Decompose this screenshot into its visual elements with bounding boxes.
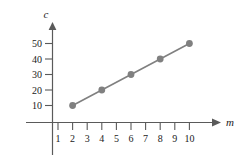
x-axis [26,119,221,127]
x-tick-label: 6 [129,133,134,144]
x-tick-label: 3 [85,133,90,144]
data-point-marker [157,56,164,63]
x-axis-arrow-icon [212,119,221,127]
data-point-marker [186,40,193,47]
x-tick-label: 9 [172,133,177,144]
x-axis-tick-labels: 1 2 3 4 5 6 7 8 9 10 [56,133,195,144]
x-tick-label: 2 [70,133,75,144]
x-tick-label: 7 [143,133,148,144]
y-tick-label: 30 [32,69,42,80]
y-tick-label: 10 [32,100,42,111]
y-axis-arrow-icon [49,22,57,30]
data-point-marker [69,102,76,109]
data-point-markers [69,40,193,109]
y-tick-label: 40 [32,54,42,65]
x-tick-label: 8 [158,133,163,144]
y-tick-label: 20 [32,85,42,96]
chart-canvas: 50 40 30 20 10 1 2 3 4 5 6 7 8 9 10 [0,0,248,164]
x-tick-label: 4 [99,133,104,144]
y-axis-label: c [44,8,49,20]
data-point-marker [98,87,105,94]
y-axis-ticks [45,44,53,106]
x-axis-ticks [58,122,189,130]
data-point-marker [128,71,135,78]
x-tick-label: 5 [114,133,119,144]
x-tick-label: 10 [184,133,194,144]
y-axis-tick-labels: 50 40 30 20 10 [32,38,42,111]
x-tick-label: 1 [56,133,61,144]
line-chart-figure: 50 40 30 20 10 1 2 3 4 5 6 7 8 9 10 [0,0,248,164]
y-tick-label: 50 [32,38,42,49]
x-axis-label: m [226,116,234,128]
